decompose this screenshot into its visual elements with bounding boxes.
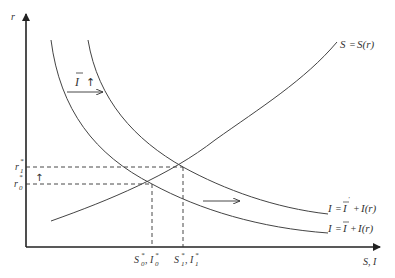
x-tick-s1-i1: S 1 * , I 1 * <box>174 251 199 268</box>
svg-text:+: + <box>353 203 360 214</box>
svg-text:S: S <box>134 254 139 265</box>
y-axis-label: r <box>11 11 15 22</box>
x-tick-s0-i0: S 0 * , I 0 * <box>134 251 159 268</box>
svg-text:I: I <box>189 254 194 265</box>
svg-text:S: S <box>174 254 179 265</box>
svg-text:,: , <box>185 254 188 265</box>
svg-text:I: I <box>327 202 333 214</box>
investment-curve-shifted <box>88 40 328 214</box>
svg-text:*: * <box>20 157 24 165</box>
svg-text:S(r): S(r) <box>357 38 374 51</box>
svg-text:*: * <box>195 251 199 259</box>
svg-text:': ' <box>348 195 350 203</box>
svg-text:S: S <box>340 38 346 50</box>
autonomous-investment-increase-label: I ↑ <box>74 73 95 89</box>
investment-shifted-label: I = I ' + I(r) <box>327 195 377 215</box>
svg-text:0: 0 <box>155 260 159 268</box>
svg-text:I: I <box>342 202 348 214</box>
svg-text:0: 0 <box>19 184 23 192</box>
up-arrow-icon: ↑ <box>86 76 95 89</box>
svg-text:+: + <box>350 223 357 234</box>
svg-text:,: , <box>145 254 148 265</box>
saving-curve-label: S = S(r) <box>340 38 374 51</box>
svg-text:I: I <box>342 222 348 234</box>
svg-text:=: = <box>335 203 342 214</box>
saving-investment-diagram: r S, I I ↑ ↑ r 1 * r 0 * S 0 * , I 0 * <box>0 0 395 278</box>
saving-curve <box>51 42 337 221</box>
rate-increase-arrow-icon: ↑ <box>35 172 43 183</box>
svg-text:r: r <box>15 161 19 172</box>
svg-text:I(r): I(r) <box>357 222 374 235</box>
svg-text:I: I <box>149 254 154 265</box>
x-axis-label: S, I <box>363 256 377 267</box>
svg-text:I: I <box>327 222 333 234</box>
investment-curve-initial <box>51 40 328 233</box>
svg-text:I: I <box>74 75 80 89</box>
svg-text:1: 1 <box>181 260 185 268</box>
svg-text:=: = <box>349 39 356 50</box>
svg-text:*: * <box>19 173 23 181</box>
y-tick-r0: r 0 * <box>14 173 23 192</box>
svg-text:r: r <box>14 178 18 189</box>
investment-initial-label: I = I + I(r) <box>327 222 374 235</box>
svg-text:=: = <box>335 223 342 234</box>
svg-text:I(r): I(r) <box>360 202 377 215</box>
svg-text:*: * <box>155 251 159 259</box>
svg-text:1: 1 <box>195 260 199 268</box>
